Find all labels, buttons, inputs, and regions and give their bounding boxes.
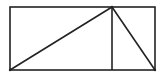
- geometry-diagram: [0, 0, 168, 78]
- apex-point: [111, 6, 113, 8]
- right-diagonal: [112, 7, 155, 70]
- bottom-right-point: [154, 69, 156, 71]
- diagram-lines: [10, 7, 155, 70]
- left-diagonal: [10, 7, 112, 70]
- bottom-left-point: [9, 69, 11, 71]
